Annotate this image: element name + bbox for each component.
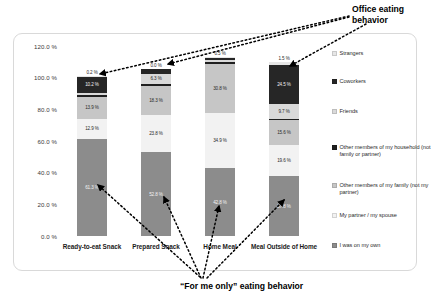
bar-segment-label: 24.5 % (277, 82, 291, 87)
bar-segment[interactable]: 52.8 % (141, 152, 171, 236)
legend-color-swatch (332, 243, 337, 248)
stacked-bar[interactable]: 42.8 %34.9 %30.8 %1.1 %1.4 %1.3 %0.5 % (205, 57, 235, 236)
bar-segment[interactable]: 13.9 % (77, 97, 107, 119)
legend-item[interactable]: Strangers (332, 50, 433, 57)
bar-segment-label: 61.3 % (85, 185, 99, 190)
y-axis-tick-label: 20.0 % (37, 201, 57, 208)
bar-segment-label: 1.5 % (278, 56, 289, 61)
legend-item[interactable]: I was on my own (332, 242, 433, 249)
bar-group: 42.8 %34.9 %30.8 %1.1 %1.4 %1.3 %0.5 % (188, 46, 252, 236)
bar-group: 61.3 %12.9 %13.9 %1.2 %1.1 %10.2 %0.2 % (60, 46, 124, 236)
chart-legend: StrangersCoworkersFriendsOther members o… (332, 46, 433, 258)
bar-segment-label: 19.6 % (277, 158, 291, 163)
bar-segment[interactable]: 1.0 % (269, 119, 299, 121)
bar-segment[interactable]: 1.4 % (205, 60, 235, 62)
bar-segment-label: 6.3 % (150, 76, 161, 81)
x-axis-category-label: Meal Outside of Home (240, 242, 328, 251)
bar-segment[interactable]: 9.7 % (269, 104, 299, 119)
legend-color-swatch (332, 79, 337, 84)
y-axis-tick-label: 100.0 % (34, 74, 57, 81)
bar-segment[interactable]: 42.8 % (205, 168, 235, 236)
bar-segment[interactable]: 23.8 % (141, 115, 171, 153)
bar-segment[interactable]: 0.5 % (205, 57, 235, 58)
chart-frame: 120.0 %100.0 %80.0 %60.0 %40.0 %20.0 %0.… (13, 33, 417, 271)
bar-segment[interactable]: 24.5 % (269, 65, 299, 104)
bar-segment-label: 0.2 % (86, 70, 97, 75)
y-axis-tick-label: 80.0 % (37, 106, 57, 113)
bar-segment-label: 9.7 % (278, 109, 289, 114)
x-axis: Ready-to-eat SnackPrepared SnackHome Mea… (60, 242, 316, 264)
y-axis: 120.0 %100.0 %80.0 %60.0 %40.0 %20.0 %0.… (14, 34, 60, 272)
stacked-bar[interactable]: 52.8 %23.8 %18.3 %1.4 %6.3 %3.0 %0.0 % (141, 69, 171, 236)
legend-item[interactable]: Coworkers (332, 78, 433, 85)
legend-item-label: Other members of my household (not famil… (340, 144, 433, 158)
bar-segment[interactable]: 15.6 % (269, 120, 299, 145)
stacked-bar[interactable]: 37.8 %19.6 %15.6 %1.0 %9.7 %24.5 %1.5 % (269, 62, 299, 236)
bar-segment-label: 15.6 % (277, 130, 291, 135)
bar-segment[interactable]: 61.3 % (77, 139, 107, 236)
bar-segment-label: 34.9 % (213, 138, 227, 143)
plot-area: 61.3 %12.9 %13.9 %1.2 %1.1 %10.2 %0.2 %5… (60, 46, 316, 236)
bar-segment-label: 12.9 % (85, 126, 99, 131)
legend-item-label: Other members of my family (not my partn… (340, 182, 433, 196)
legend-color-swatch (332, 213, 337, 218)
legend-color-swatch (332, 51, 337, 56)
bar-segment[interactable]: 1.1 % (205, 62, 235, 64)
bar-segment-label: 10.2 % (85, 82, 99, 87)
bar-segment-label: 30.8 % (213, 86, 227, 91)
legend-item[interactable]: Other members of my family (not my partn… (332, 182, 433, 196)
bar-segment[interactable]: 1.2 % (77, 95, 107, 97)
legend-color-swatch (332, 183, 337, 188)
bar-segment[interactable]: 18.3 % (141, 86, 171, 115)
annotation-for-me-only-eating-behavior: “For me only” eating behavior (180, 281, 303, 292)
bar-segment[interactable]: 1.3 % (205, 58, 235, 60)
bar-segment[interactable]: 12.9 % (77, 119, 107, 139)
bar-segment[interactable]: 30.8 % (205, 64, 235, 113)
legend-item-label: Coworkers (340, 78, 366, 85)
annotation-office-eating-behavior: Office eating behavior (352, 4, 404, 25)
y-axis-tick-label: 60.0 % (37, 138, 57, 145)
legend-item[interactable]: Other members of my household (not famil… (332, 144, 433, 158)
stacked-bar[interactable]: 61.3 %12.9 %13.9 %1.2 %1.1 %10.2 %0.2 % (77, 76, 107, 236)
legend-color-swatch (332, 145, 337, 150)
bar-segment-label: 0.5 % (214, 51, 225, 56)
bar-segment-label: 18.3 % (149, 98, 163, 103)
legend-item[interactable]: My partner / my spouse (332, 212, 433, 219)
bar-segment-label: 23.8 % (149, 131, 163, 136)
bar-segment[interactable]: 10.2 % (77, 77, 107, 93)
bar-segment-label: 42.8 % (213, 200, 227, 205)
bar-segment-label: 13.9 % (85, 105, 99, 110)
bar-segment[interactable]: 34.9 % (205, 113, 235, 168)
bar-segment[interactable]: 1.5 % (269, 62, 299, 64)
legend-item-label: Strangers (340, 50, 364, 57)
legend-item-label: Friends (340, 108, 358, 115)
bar-group: 37.8 %19.6 %15.6 %1.0 %9.7 %24.5 %1.5 % (252, 46, 316, 236)
bar-segment-label: 0.0 % (150, 63, 161, 68)
y-axis-tick-label: 0.0 % (41, 233, 57, 240)
bar-segment[interactable]: 1.4 % (141, 84, 171, 86)
bar-group: 52.8 %23.8 %18.3 %1.4 %6.3 %3.0 %0.0 % (124, 46, 188, 236)
bar-segment-label: 37.8 % (277, 204, 291, 209)
bar-segment-label: 52.8 % (149, 192, 163, 197)
bar-segment[interactable]: 3.0 % (141, 69, 171, 74)
bar-segment[interactable]: 37.8 % (269, 176, 299, 236)
bar-segment[interactable]: 6.3 % (141, 74, 171, 84)
bar-segment[interactable]: 19.6 % (269, 145, 299, 176)
legend-color-swatch (332, 109, 337, 114)
legend-item-label: I was on my own (340, 242, 381, 249)
y-axis-tick-label: 40.0 % (37, 169, 57, 176)
legend-item[interactable]: Friends (332, 108, 433, 115)
legend-item-label: My partner / my spouse (340, 212, 397, 219)
bar-segment[interactable]: 1.1 % (77, 93, 107, 95)
y-axis-tick-label: 120.0 % (34, 43, 57, 50)
